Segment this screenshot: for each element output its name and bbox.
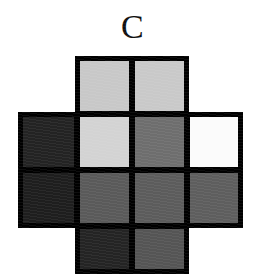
- grid-cell-r3c4: [185, 168, 243, 228]
- grid-cell-r3c3: [130, 168, 189, 228]
- grid-cell-r4c3: [130, 224, 189, 274]
- cross-shaped-patch-grid: [18, 56, 243, 274]
- figure-label-text: C: [121, 8, 144, 45]
- grid-cell-r1c3: [130, 56, 189, 116]
- grid-cell-r2c2: [75, 112, 134, 172]
- grid-cell-r1c2: [75, 56, 134, 116]
- grid-cell-r3c2: [75, 168, 134, 228]
- grid-cell-r3c1: [18, 168, 79, 228]
- stimulus-figure: C: [0, 0, 263, 279]
- grid-cell-r4c2: [75, 224, 134, 274]
- grid-cell-r2c4: [185, 112, 243, 172]
- grid-cell-r2c3: [130, 112, 189, 172]
- figure-label: C: [0, 7, 263, 47]
- grid-cell-r2c1: [18, 112, 79, 172]
